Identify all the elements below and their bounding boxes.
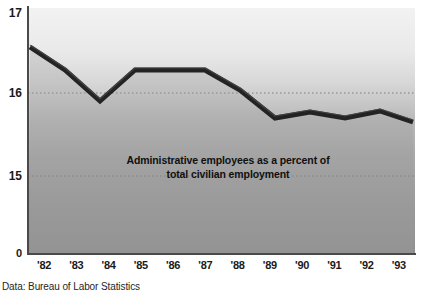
x-axis-line: [27, 253, 416, 255]
chart-container: Administrative employees as a percent of…: [0, 0, 434, 298]
x-axis-tick: '82: [28, 258, 60, 274]
x-axis-tick: '89: [254, 258, 286, 274]
x-axis-ticks: '82 '83 '84 '85 '86 '87 '88 '89 '90 '91 …: [28, 258, 415, 274]
y-axis-line: [27, 6, 29, 255]
x-axis-tick: '87: [189, 258, 221, 274]
y-axis-tick-17: 17: [0, 7, 22, 19]
annotation-line-1: Administrative employees as a percent of: [98, 153, 358, 167]
y-axis-tick-16: 16: [0, 87, 22, 99]
x-axis-tick: '86: [157, 258, 189, 274]
annotation-line-2: total civilian employment: [98, 167, 358, 181]
x-axis-tick: '88: [222, 258, 254, 274]
x-axis-tick: '91: [318, 258, 350, 274]
x-axis-tick: '83: [60, 258, 92, 274]
y-axis-tick-0: 0: [0, 247, 22, 259]
y-axis-tick-15: 15: [0, 170, 22, 182]
x-axis-tick: '92: [351, 258, 383, 274]
chart-series-svg: [28, 8, 415, 253]
x-axis-tick: '90: [286, 258, 318, 274]
x-axis-tick: '93: [383, 258, 415, 274]
x-axis-tick: '84: [93, 258, 125, 274]
plot-area: Administrative employees as a percent of…: [28, 8, 415, 253]
x-axis-tick: '85: [125, 258, 157, 274]
chart-annotation: Administrative employees as a percent of…: [98, 153, 358, 181]
source-note: Data: Bureau of Labor Statistics: [2, 281, 140, 293]
